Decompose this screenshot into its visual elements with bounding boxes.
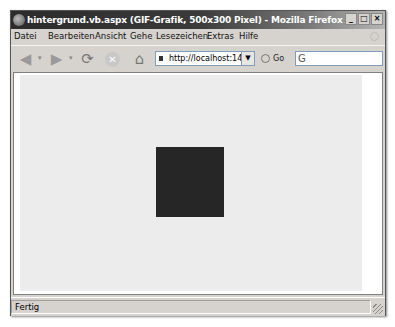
browser-window: hintergrund.vb.aspx (GIF-Grafik, 500x300… bbox=[10, 10, 386, 316]
dark-square bbox=[156, 147, 224, 217]
title-bar[interactable]: hintergrund.vb.aspx (GIF-Grafik, 500x300… bbox=[11, 11, 385, 29]
url-text[interactable]: http://localhost:1440 bbox=[169, 52, 252, 65]
menu-gehe[interactable]: Gehe bbox=[130, 29, 152, 44]
forward-dropdown-icon[interactable]: ▾ bbox=[69, 54, 73, 62]
forward-icon[interactable]: ▶ bbox=[48, 51, 65, 68]
window-controls: _ □ × bbox=[345, 13, 383, 25]
menu-extras[interactable]: Extras bbox=[207, 29, 234, 44]
menu-bar: Datei Bearbeiten Ansicht Gehe Lesezeiche… bbox=[11, 29, 385, 44]
gif-image bbox=[20, 75, 362, 291]
menu-ansicht[interactable]: Ansicht bbox=[95, 29, 126, 44]
menu-bearbeiten[interactable]: Bearbeiten bbox=[48, 29, 95, 44]
home-icon[interactable]: ⌂ bbox=[131, 51, 148, 68]
throbber-icon bbox=[370, 32, 379, 41]
firefox-icon bbox=[13, 14, 25, 26]
status-text: Fertig bbox=[15, 298, 39, 316]
url-history-dropdown[interactable]: ▼ bbox=[241, 51, 255, 66]
stop-icon[interactable]: ✕ bbox=[105, 52, 120, 67]
url-bar[interactable]: http://localhost:1440 bbox=[155, 51, 255, 66]
resize-grip-icon[interactable] bbox=[373, 304, 383, 314]
status-bar: Fertig bbox=[11, 297, 385, 316]
back-icon[interactable]: ◀ bbox=[17, 51, 34, 68]
close-button[interactable]: × bbox=[371, 13, 383, 25]
go-icon bbox=[261, 54, 270, 63]
site-icon bbox=[159, 56, 163, 61]
window-title: hintergrund.vb.aspx (GIF-Grafik, 500x300… bbox=[27, 11, 343, 29]
menu-lesezeichen[interactable]: Lesezeichen bbox=[156, 29, 208, 44]
go-label: Go bbox=[273, 54, 284, 63]
maximize-button[interactable]: □ bbox=[358, 13, 370, 25]
menu-datei[interactable]: Datei bbox=[14, 29, 37, 44]
reload-icon[interactable]: ⟳ bbox=[79, 51, 96, 68]
search-box[interactable]: G bbox=[295, 51, 383, 66]
google-search-engine-icon[interactable]: G bbox=[298, 53, 306, 65]
go-button[interactable]: Go bbox=[261, 51, 284, 66]
back-dropdown-icon[interactable]: ▾ bbox=[38, 54, 42, 62]
minimize-button[interactable]: _ bbox=[345, 13, 357, 25]
page-content bbox=[13, 72, 383, 295]
status-panel bbox=[11, 300, 371, 314]
navigation-toolbar: ◀ ▾ ▶ ▾ ⟳ ✕ ⌂ http://localhost:1440 ▼ Go… bbox=[11, 45, 385, 72]
menu-hilfe[interactable]: Hilfe bbox=[239, 29, 258, 44]
